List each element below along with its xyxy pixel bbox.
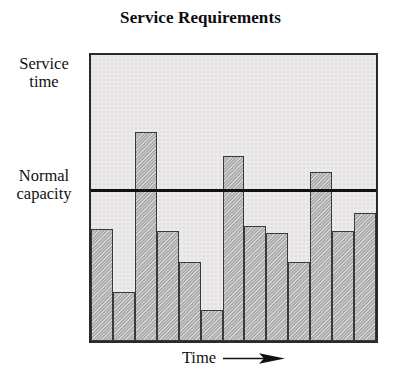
x-axis-label-text: Time bbox=[182, 348, 216, 368]
bar bbox=[223, 156, 245, 341]
x-axis-label: Time bbox=[89, 348, 378, 368]
bar bbox=[266, 233, 288, 341]
bar bbox=[91, 229, 113, 341]
y-axis-label-normal-capacity-line2: capacity bbox=[0, 185, 88, 203]
page-title: Service Requirements bbox=[0, 8, 401, 28]
bar bbox=[113, 292, 135, 341]
y-axis-label-normal-capacity: Normal capacity bbox=[0, 167, 88, 203]
y-axis-label-service-time-line1: Service bbox=[2, 55, 86, 73]
bar-series-layer bbox=[91, 55, 376, 341]
bar bbox=[288, 262, 310, 341]
bar bbox=[244, 226, 266, 341]
y-axis-label-service-time-line2: time bbox=[2, 73, 86, 91]
bar bbox=[157, 231, 179, 341]
y-axis-label-service-time: Service time bbox=[2, 55, 86, 91]
bar bbox=[201, 310, 223, 341]
bar bbox=[179, 262, 201, 341]
bar bbox=[332, 231, 354, 341]
chart-plot-area bbox=[89, 53, 378, 343]
right-arrow-icon bbox=[223, 352, 285, 365]
bar bbox=[135, 132, 157, 341]
bar bbox=[310, 172, 332, 341]
y-axis-label-normal-capacity-line1: Normal bbox=[0, 167, 88, 185]
normal-capacity-threshold-line bbox=[91, 189, 376, 192]
bar bbox=[354, 213, 376, 341]
